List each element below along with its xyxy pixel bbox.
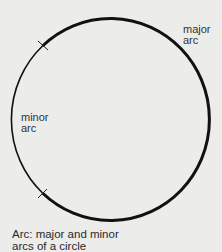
major-arc — [43, 19, 210, 221]
major-arc-label: major arc — [183, 24, 211, 46]
figure-caption: Arc: major and minor arcs of a circle — [12, 228, 119, 252]
minor-arc-label: minor arc — [21, 112, 49, 134]
